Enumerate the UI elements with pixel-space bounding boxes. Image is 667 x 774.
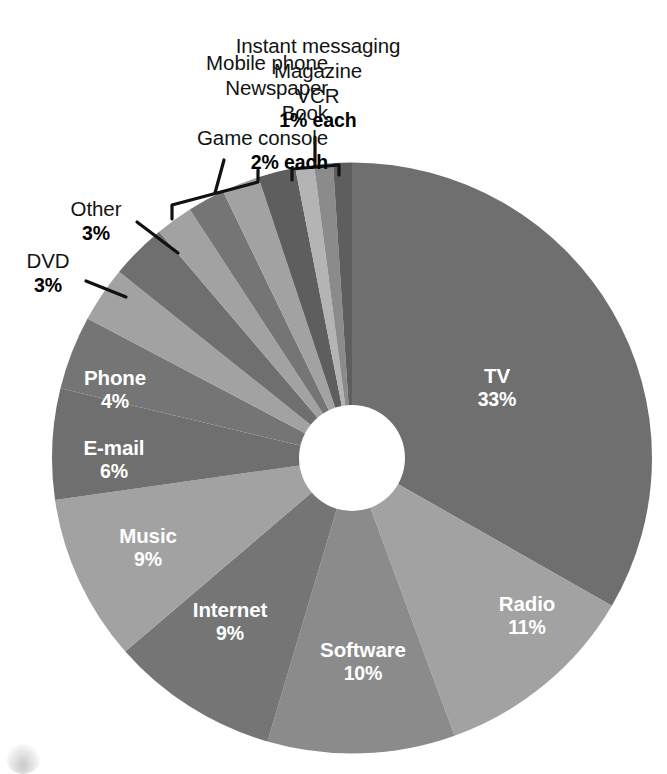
slice-label-music-name: Music bbox=[98, 524, 198, 548]
slice-label-internet-percent: 9% bbox=[170, 622, 290, 645]
label-dvd: DVD 3% bbox=[10, 248, 86, 297]
label-vcr: VCR bbox=[228, 83, 408, 108]
slice-label-tv-name: TV bbox=[452, 364, 542, 388]
label-2-percent-each: 2% each bbox=[106, 150, 328, 174]
slice-label-tv: TV 33% bbox=[452, 364, 542, 411]
label-other: Other 3% bbox=[58, 196, 134, 245]
slice-label-phone-percent: 4% bbox=[66, 390, 164, 413]
slice-label-radio: Radio 11% bbox=[482, 592, 572, 639]
slice-label-email: E-mail 6% bbox=[62, 436, 166, 483]
slice-label-software-name: Software bbox=[298, 638, 428, 662]
slice-label-email-name: E-mail bbox=[62, 436, 166, 460]
slice-label-phone-name: Phone bbox=[66, 366, 164, 390]
slice-label-software: Software 10% bbox=[298, 638, 428, 685]
slice-label-phone: Phone 4% bbox=[66, 366, 164, 413]
slice-label-internet-name: Internet bbox=[170, 598, 290, 622]
label-group-1-percent: Instant messaging Magazine VCR 1% each bbox=[228, 33, 408, 132]
slice-label-internet: Internet 9% bbox=[170, 598, 290, 645]
donut-hole bbox=[299, 405, 405, 511]
page-artifact-blob bbox=[6, 744, 40, 774]
slice-label-radio-name: Radio bbox=[482, 592, 572, 616]
label-magazine: Magazine bbox=[228, 58, 408, 83]
slice-label-email-percent: 6% bbox=[62, 460, 166, 483]
slice-label-music: Music 9% bbox=[98, 524, 198, 571]
label-other-percent: 3% bbox=[58, 221, 134, 245]
label-dvd-name: DVD bbox=[10, 248, 86, 273]
label-dvd-percent: 3% bbox=[10, 273, 86, 297]
slice-label-radio-percent: 11% bbox=[482, 616, 572, 639]
slice-label-tv-percent: 33% bbox=[452, 388, 542, 411]
label-other-name: Other bbox=[58, 196, 134, 221]
label-instant-messaging: Instant messaging bbox=[228, 33, 408, 58]
label-1-percent-each: 1% each bbox=[228, 108, 408, 132]
slice-label-music-percent: 9% bbox=[98, 548, 198, 571]
slice-label-software-percent: 10% bbox=[298, 662, 428, 685]
